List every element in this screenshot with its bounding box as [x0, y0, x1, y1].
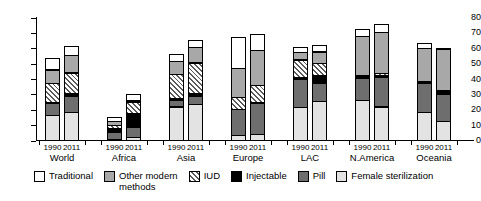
- bar-segment-pill: [45, 103, 60, 115]
- y-tick: [31, 94, 36, 95]
- bar-segment-pill: [374, 77, 389, 108]
- bar-segment-iud: [231, 97, 246, 109]
- bar-segment-other: [169, 61, 184, 75]
- bar-segment-fem: [126, 137, 141, 141]
- legend-label-inj: Injectable: [246, 170, 287, 181]
- legend-swatch-pill: [298, 171, 309, 182]
- y-tick-label: 20: [455, 105, 481, 114]
- bar-segment-trad: [231, 37, 246, 69]
- bar-oceania-1990: [417, 43, 432, 140]
- bar-segment-trad: [250, 34, 265, 51]
- bar-segment-fem: [312, 101, 327, 141]
- y-tick: [31, 18, 36, 19]
- y-tick-label: 60: [455, 44, 481, 53]
- bar-segment-pill: [293, 79, 308, 108]
- bar-asia-2011: [188, 40, 203, 140]
- legend-label-iud: IUD: [204, 170, 220, 181]
- x-year-label: 2011: [57, 143, 87, 152]
- y-tick: [31, 64, 36, 65]
- legend-swatch-fem: [336, 171, 347, 182]
- y-tick: [31, 125, 36, 126]
- legend-swatch-inj: [231, 171, 242, 182]
- legend-swatch-trad: [34, 171, 45, 182]
- x-year-label: 2011: [305, 143, 335, 152]
- bar-segment-pill: [312, 83, 327, 102]
- x-year-label: 2011: [243, 143, 273, 152]
- bar-europe-1990: [231, 37, 246, 140]
- legend-item-inj[interactable]: Injectable: [231, 170, 287, 182]
- bar-lac-2011: [312, 45, 327, 141]
- bar-africa-2011: [126, 94, 141, 140]
- bar-segment-fem: [250, 134, 265, 141]
- bar-segment-trad: [45, 58, 60, 70]
- x-group-label-oceania: Oceania: [398, 153, 470, 163]
- bar-segment-fem: [169, 107, 184, 142]
- bar-segment-fem: [64, 112, 79, 141]
- bar-world-2011: [64, 46, 79, 140]
- bar-segment-iud: [293, 60, 308, 78]
- bar-segment-pill: [64, 96, 79, 113]
- bar-segment-fem: [355, 100, 370, 141]
- y-tick-label: 50: [455, 59, 481, 68]
- bar-segment-iud: [45, 83, 60, 103]
- bar-namerica-2011: [374, 24, 389, 141]
- bar-segment-fem: [293, 107, 308, 141]
- y-tick: [31, 48, 36, 49]
- x-year-label: 2011: [181, 143, 211, 152]
- bar-segment-fem: [436, 121, 451, 141]
- legend-item-iud[interactable]: IUD: [189, 170, 220, 182]
- bar-segment-other: [355, 36, 370, 76]
- bar-segment-iud: [169, 74, 184, 99]
- bar-segment-other: [374, 32, 389, 74]
- bar-segment-other: [250, 50, 265, 85]
- bar-segment-fem: [45, 115, 60, 141]
- bar-segment-iud: [64, 73, 79, 95]
- legend-swatch-iud: [189, 171, 200, 182]
- bar-segment-iud: [188, 63, 203, 95]
- bar-lac-1990: [293, 47, 308, 140]
- bar-segment-fem: [374, 107, 389, 142]
- bar-oceania-2011: [436, 48, 451, 141]
- y-tick-label: 80: [455, 13, 481, 22]
- y-tick: [31, 33, 36, 34]
- y-tick-label: 0: [455, 136, 481, 145]
- bar-segment-iud: [312, 63, 327, 75]
- legend-label-fem: Female sterilization: [351, 170, 433, 181]
- y-tick-label: 40: [455, 75, 481, 84]
- bar-segment-other: [417, 48, 432, 81]
- bar-segment-pill: [355, 78, 370, 101]
- bar-segment-pill: [417, 83, 432, 112]
- legend-item-pill[interactable]: Pill: [298, 170, 326, 182]
- y-tick: [31, 79, 36, 80]
- bar-segment-fem: [188, 104, 203, 141]
- bar-segment-other: [312, 52, 327, 64]
- bar-segment-fem: [417, 112, 432, 141]
- bar-segment-other: [231, 68, 246, 98]
- bar-segment-pill: [250, 103, 265, 135]
- bar-segment-iud: [250, 85, 265, 103]
- bar-segment-other: [436, 49, 451, 91]
- x-year-label: 2011: [429, 143, 459, 152]
- legend-item-fem[interactable]: Female sterilization: [336, 170, 433, 182]
- legend-label-pill: Pill: [313, 170, 326, 181]
- y-tick-label: 30: [455, 90, 481, 99]
- stacked-bar-chart: 01020304050607080 19902011World19902011A…: [0, 0, 481, 201]
- legend-swatch-other: [104, 171, 115, 182]
- legend-item-trad[interactable]: Traditional: [34, 170, 93, 182]
- y-tick-label: 70: [455, 28, 481, 37]
- y-tick-label: 10: [455, 121, 481, 130]
- bar-namerica-1990: [355, 29, 370, 141]
- bar-europe-2011: [250, 34, 265, 140]
- bar-segment-other: [188, 47, 203, 63]
- chart-legend: TraditionalOther modern methodsIUDInject…: [34, 170, 464, 196]
- bar-segment-pill: [436, 94, 451, 122]
- x-year-label: 2011: [119, 143, 149, 152]
- bar-segment-iud: [126, 102, 141, 114]
- y-axis-line: [36, 17, 37, 141]
- bar-segment-pill: [231, 109, 246, 136]
- legend-item-other[interactable]: Other modern methods: [104, 170, 178, 192]
- bar-asia-1990: [169, 54, 184, 140]
- x-year-label: 2011: [367, 143, 397, 152]
- y-tick: [31, 141, 36, 142]
- legend-label-other: Other modern methods: [119, 170, 178, 192]
